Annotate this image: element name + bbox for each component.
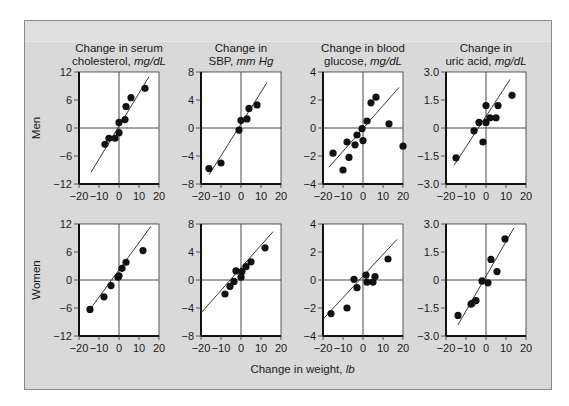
x-tick-label: 0	[360, 342, 366, 354]
data-point	[100, 293, 107, 300]
x-tick-label: −20	[314, 190, 333, 202]
data-point	[482, 102, 489, 109]
y-tick-label: −6	[59, 150, 72, 162]
x-tick-label: 20	[275, 190, 287, 202]
y-tick-label: 6	[66, 246, 72, 258]
x-tick-label: −10	[212, 190, 231, 202]
data-point	[363, 117, 370, 124]
x-tick-label: 20	[153, 190, 165, 202]
x-tick-label: 0	[238, 190, 244, 202]
x-tick-label: 20	[397, 190, 409, 202]
y-tick-label: −4	[303, 178, 316, 190]
x-tick-label: −20	[437, 190, 456, 202]
y-tick-label: −1.5	[417, 150, 439, 162]
y-tick-label: 3.0	[424, 66, 439, 78]
data-point	[492, 114, 499, 121]
data-point	[493, 268, 500, 275]
data-point	[484, 279, 491, 286]
y-tick-label: 12	[60, 66, 72, 78]
panel-women-1: 840−4−8−20−1001020	[181, 218, 287, 354]
data-point	[245, 105, 252, 112]
data-point	[243, 115, 250, 122]
data-point	[353, 284, 360, 291]
data-point	[221, 290, 228, 297]
x-tick-label: −20	[70, 190, 89, 202]
data-point	[141, 85, 148, 92]
y-tick-label: 6	[66, 94, 72, 106]
data-point	[343, 138, 350, 145]
data-point	[329, 150, 336, 157]
y-tick-label: 0	[188, 274, 194, 286]
column-title-line2: uric acid, mg/dL	[445, 55, 526, 67]
y-tick-label: −8	[181, 178, 194, 190]
data-point	[127, 94, 134, 101]
x-tick-label: 10	[255, 342, 267, 354]
panel-men-3: 3.01.50−1.5−3.0−20−1001020	[417, 66, 532, 202]
x-tick-label: 20	[153, 342, 165, 354]
data-point	[501, 235, 508, 242]
y-tick-label: −2	[303, 302, 316, 314]
data-point	[118, 265, 125, 272]
y-tick-label: −1.5	[417, 302, 439, 314]
data-point	[115, 272, 122, 279]
column-title-line2: SBP, mm Hg	[209, 55, 275, 67]
x-tick-label: −10	[334, 342, 353, 354]
data-point	[452, 154, 459, 161]
data-point	[362, 272, 369, 279]
data-point	[358, 125, 365, 132]
data-point	[371, 273, 378, 280]
data-point	[345, 154, 352, 161]
data-point	[339, 166, 346, 173]
column-title-line2: glucose, mg/dL	[324, 55, 402, 67]
x-tick-label: 20	[275, 342, 287, 354]
y-tick-label: −12	[53, 178, 72, 190]
data-point	[235, 127, 242, 134]
y-tick-label: 4	[310, 218, 316, 230]
row-label-men: Men	[30, 117, 42, 139]
data-point	[350, 276, 357, 283]
data-point	[237, 117, 244, 124]
panel-women-3: 3.01.50−1.5−3.0−20−1001020	[417, 218, 532, 354]
panel-men-1: 840−4−8−20−1001020	[181, 66, 287, 202]
y-tick-label: 1.5	[424, 246, 439, 258]
scatter-grid-chart: Change in serumcholesterol, mg/dLChange …	[0, 0, 569, 406]
x-tick-label: 20	[397, 342, 409, 354]
data-point	[353, 131, 360, 138]
x-tick-label: −10	[90, 342, 109, 354]
y-tick-label: 0	[310, 122, 316, 134]
y-tick-label: −3.0	[417, 178, 439, 190]
y-tick-label: 0	[433, 274, 439, 286]
x-axis-label: Change in weight, lb	[250, 363, 355, 375]
data-point	[86, 306, 93, 313]
data-point	[359, 137, 366, 144]
panel-women-2: 420−2−4−20−1001020	[303, 218, 409, 354]
data-point	[470, 127, 477, 134]
y-tick-label: 12	[60, 218, 72, 230]
data-point	[247, 258, 254, 265]
x-tick-label: 10	[500, 190, 512, 202]
panel-women-0: 1260−6−12−20−1001020	[53, 218, 165, 354]
y-tick-label: −8	[181, 330, 194, 342]
data-point	[217, 159, 224, 166]
data-point	[122, 259, 129, 266]
x-tick-label: −20	[437, 342, 456, 354]
y-tick-label: 2	[310, 94, 316, 106]
column-title-line1: Change in serum	[75, 42, 163, 54]
data-point	[351, 141, 358, 148]
data-point	[454, 312, 461, 319]
data-point	[487, 256, 494, 263]
y-tick-label: 0	[433, 122, 439, 134]
x-tick-label: 0	[360, 190, 366, 202]
x-tick-label: −20	[192, 342, 211, 354]
y-tick-label: 4	[188, 246, 194, 258]
x-tick-label: 0	[116, 342, 122, 354]
data-point	[479, 138, 486, 145]
data-point	[205, 165, 212, 172]
x-tick-label: −10	[457, 342, 476, 354]
data-point	[139, 247, 146, 254]
panel-men-0: 1260−6−12−20−1001020	[53, 66, 165, 202]
data-point	[343, 304, 350, 311]
y-tick-label: 0	[310, 274, 316, 286]
y-tick-label: −4	[303, 330, 316, 342]
column-title-line2: cholesterol, mg/dL	[72, 55, 166, 67]
